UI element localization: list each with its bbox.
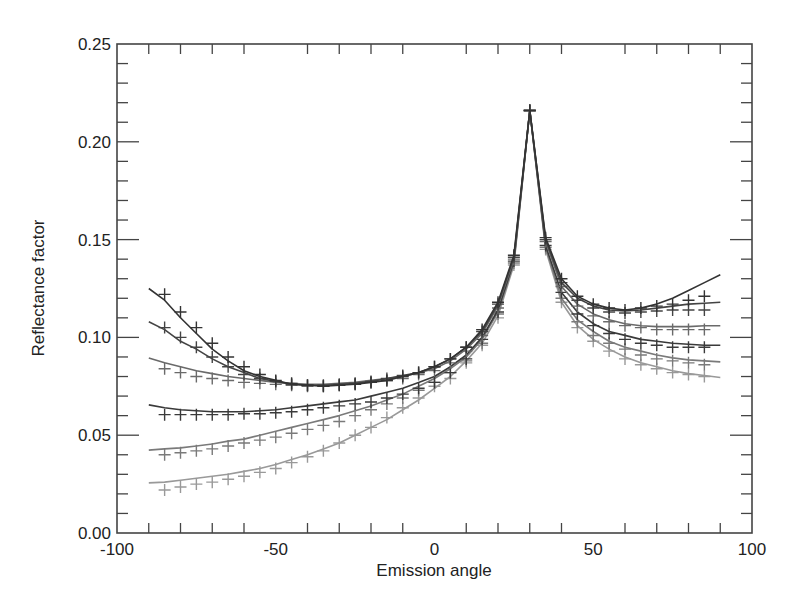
x-axis-label: Emission angle <box>376 561 491 580</box>
plus-marker <box>286 377 298 389</box>
plus-marker <box>365 421 377 433</box>
plus-marker <box>175 481 187 493</box>
plus-marker <box>619 320 631 332</box>
plus-marker <box>349 429 361 441</box>
series-curve-2 <box>149 105 721 392</box>
plus-marker <box>683 341 695 353</box>
series-line <box>149 111 721 483</box>
plus-marker <box>698 371 710 383</box>
series-curve-6 <box>149 105 721 496</box>
series-line <box>149 111 721 385</box>
plus-marker <box>667 324 679 336</box>
plus-marker <box>254 408 266 420</box>
plus-marker <box>683 369 695 381</box>
plus-marker <box>651 324 663 336</box>
x-tick-label: -50 <box>263 540 288 559</box>
y-tick-label: 0.20 <box>78 133 111 152</box>
y-tick-label: 0.25 <box>78 35 111 54</box>
plus-marker <box>413 367 425 379</box>
series-line <box>149 111 721 386</box>
plus-marker <box>381 374 393 386</box>
plus-marker <box>190 478 202 490</box>
plus-marker <box>333 437 345 449</box>
plus-marker <box>175 306 187 318</box>
plus-marker <box>190 371 202 383</box>
y-axis-label: Reflectance factor <box>29 219 48 356</box>
plus-marker <box>159 409 171 421</box>
x-tick-label: 0 <box>430 540 439 559</box>
y-tick-label: 0.15 <box>78 231 111 250</box>
plus-marker <box>698 290 710 302</box>
plus-marker <box>667 367 679 379</box>
plus-marker <box>397 371 409 383</box>
plus-marker <box>238 408 250 420</box>
plus-marker <box>175 331 187 343</box>
plus-marker <box>206 337 218 349</box>
x-tick-label: 100 <box>738 540 766 559</box>
plot-frame <box>117 44 752 533</box>
plus-marker <box>222 409 234 421</box>
plus-marker <box>635 322 647 334</box>
plus-marker <box>270 462 282 474</box>
plus-marker <box>317 380 329 392</box>
axis-ticks <box>117 44 752 533</box>
plot-border <box>117 44 752 533</box>
series-line <box>149 111 721 451</box>
plus-marker <box>524 105 536 117</box>
data-series <box>149 105 721 496</box>
series-line <box>149 111 721 387</box>
plus-marker <box>698 341 710 353</box>
plus-marker <box>619 304 631 316</box>
y-tick-label: 0.10 <box>78 328 111 347</box>
plus-marker <box>159 288 171 300</box>
y-tick-label: 0.00 <box>78 524 111 543</box>
plus-marker <box>206 409 218 421</box>
plus-marker <box>333 379 345 391</box>
series-curve-5 <box>149 105 721 461</box>
plus-marker <box>683 324 695 336</box>
plus-marker <box>159 449 171 461</box>
chart: -100-500501000.000.050.100.150.200.25 Em… <box>0 0 802 603</box>
plus-marker <box>698 304 710 316</box>
plus-marker <box>365 376 377 388</box>
plus-marker <box>206 476 218 488</box>
plus-marker <box>349 378 361 390</box>
plus-marker <box>222 351 234 363</box>
y-tick-label: 0.05 <box>78 426 111 445</box>
plus-marker <box>302 379 314 391</box>
plus-marker <box>159 484 171 496</box>
x-tick-label: 50 <box>584 540 603 559</box>
plus-marker <box>190 322 202 334</box>
